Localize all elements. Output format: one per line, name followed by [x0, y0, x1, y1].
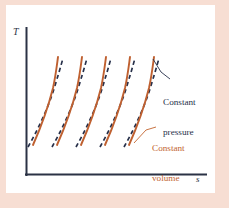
- y-axis-label: T: [13, 27, 19, 38]
- constant-pressure-curve: [28, 58, 63, 147]
- constant-volume-annotation-line1: Constant: [152, 144, 185, 154]
- constant-pressure-curve: [52, 58, 87, 147]
- constant-pressure-annotation-line1: Constant: [163, 98, 196, 108]
- figure-mount: T s Constant pressure Constant volume: [0, 0, 229, 208]
- constant-volume-series: [33, 57, 154, 145]
- constant-pressure-curve: [76, 58, 111, 147]
- x-axis-label: s: [196, 175, 200, 185]
- constant-pressure-curve: [100, 58, 135, 147]
- constant-volume-annotation-line2: volume: [152, 174, 185, 184]
- constant-volume-annotation: Constant volume: [152, 124, 185, 204]
- constant-pressure-series: [28, 58, 159, 147]
